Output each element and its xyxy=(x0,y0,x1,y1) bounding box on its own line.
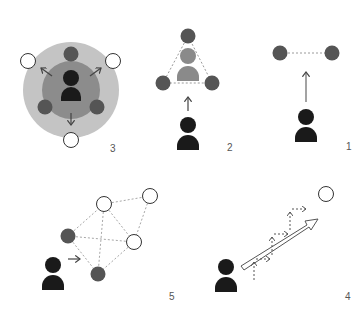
panel-label: 4 xyxy=(345,291,351,302)
person-icon xyxy=(177,117,199,150)
panel-2: 2 xyxy=(156,29,234,154)
panel-4: 4 xyxy=(215,187,351,303)
empty-node xyxy=(106,54,121,69)
panel-1: 1 xyxy=(273,46,353,153)
filled-node xyxy=(181,29,196,44)
empty-node xyxy=(21,54,36,69)
large-hollow-arrow xyxy=(241,219,318,270)
filled-node xyxy=(38,100,53,115)
panel-3: 3 xyxy=(21,42,121,154)
filled-node xyxy=(205,76,220,91)
filled-node xyxy=(325,46,340,61)
panel-label: 2 xyxy=(227,142,233,153)
person-icon xyxy=(215,259,237,292)
empty-node xyxy=(97,197,112,212)
person-icon xyxy=(295,109,317,142)
diagram-canvas: 3 2 1 xyxy=(0,0,364,318)
filled-node xyxy=(273,46,288,61)
panel-label: 5 xyxy=(169,291,175,302)
empty-node xyxy=(64,133,79,148)
panel-label: 3 xyxy=(110,143,116,154)
filled-node xyxy=(90,100,105,115)
panel-label: 1 xyxy=(346,141,352,152)
empty-node xyxy=(143,189,158,204)
filled-node xyxy=(156,76,171,91)
empty-node xyxy=(319,187,334,202)
person-icon xyxy=(42,257,64,290)
filled-node xyxy=(64,47,79,62)
panel-5: 5 xyxy=(42,189,175,303)
empty-node xyxy=(127,235,142,250)
filled-node xyxy=(91,267,106,282)
filled-node xyxy=(61,229,76,244)
faded-person-icon xyxy=(177,48,199,81)
